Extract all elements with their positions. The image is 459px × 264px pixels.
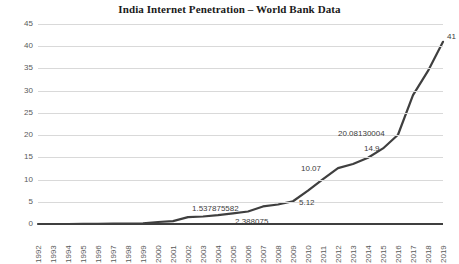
x-axis-tick-label: 2011: [317, 227, 331, 263]
gridline: [38, 157, 443, 158]
x-axis-tick-label: 2006: [242, 227, 256, 263]
x-axis: 1992199319941995199619971998199920002001…: [38, 227, 443, 264]
data-point-label: 41: [447, 32, 456, 41]
data-point-label: 2.388075: [235, 217, 268, 226]
x-axis-tick-label: 1999: [137, 227, 151, 263]
x-axis-tick-label: 1996: [92, 227, 106, 263]
plot-area: 1.5378755822.3880755.1210.0714.920.08130…: [38, 24, 443, 224]
x-axis-tick-label: 1992: [32, 227, 46, 263]
x-axis-line: [38, 223, 443, 225]
gridline: [38, 46, 443, 47]
x-axis-tick-label: 2018: [422, 227, 436, 263]
y-axis: 051015202530354045: [0, 24, 33, 224]
y-axis-tick-label: 25: [3, 108, 33, 117]
x-axis-tick-label: 2008: [272, 227, 286, 263]
y-axis-tick-label: 5: [3, 197, 33, 206]
x-axis-tick-label: 2009: [287, 227, 301, 263]
x-axis-tick-label: 2002: [182, 227, 196, 263]
chart-container: India Internet Penetration – World Bank …: [0, 0, 459, 264]
y-axis-tick-label: 15: [3, 152, 33, 161]
x-axis-tick-label: 1995: [77, 227, 91, 263]
x-axis-tick-label: 2013: [347, 227, 361, 263]
series-line: [38, 24, 443, 224]
data-point-label: 10.07: [301, 164, 321, 173]
x-axis-tick-label: 2005: [227, 227, 241, 263]
y-axis-tick-label: 40: [3, 41, 33, 50]
x-axis-tick-label: 1998: [122, 227, 136, 263]
gridline: [38, 91, 443, 92]
y-axis-tick-label: 45: [3, 19, 33, 28]
x-axis-tick-label: 2016: [392, 227, 406, 263]
x-axis-tick-label: 2001: [167, 227, 181, 263]
x-axis-tick-label: 2003: [197, 227, 211, 263]
gridline: [38, 68, 443, 69]
x-axis-tick-label: 1997: [107, 227, 121, 263]
gridline: [38, 113, 443, 114]
x-axis-tick-label: 2007: [257, 227, 271, 263]
x-axis-tick-label: 2000: [152, 227, 166, 263]
x-axis-tick-label: 2015: [377, 227, 391, 263]
x-axis-tick-label: 2012: [332, 227, 346, 263]
chart-title: India Internet Penetration – World Bank …: [0, 3, 459, 15]
data-point-label: 14.9: [364, 144, 380, 153]
gridline: [38, 24, 443, 25]
y-axis-tick-label: 35: [3, 63, 33, 72]
data-point-label: 5.12: [299, 198, 315, 207]
data-point-label: 20.08130004: [338, 129, 385, 138]
y-axis-tick-label: 20: [3, 130, 33, 139]
x-axis-tick-label: 2019: [437, 227, 451, 263]
x-axis-tick-label: 2014: [362, 227, 376, 263]
x-axis-tick-label: 1994: [62, 227, 76, 263]
x-axis-tick-label: 1993: [47, 227, 61, 263]
y-axis-tick-label: 10: [3, 175, 33, 184]
gridline: [38, 180, 443, 181]
y-axis-tick-label: 30: [3, 86, 33, 95]
data-point-label: 1.537875582: [192, 204, 239, 213]
x-axis-tick-label: 2010: [302, 227, 316, 263]
gridline: [38, 202, 443, 203]
x-axis-tick-label: 2004: [212, 227, 226, 263]
y-axis-tick-label: 0: [3, 219, 33, 228]
x-axis-tick-label: 2017: [407, 227, 421, 263]
